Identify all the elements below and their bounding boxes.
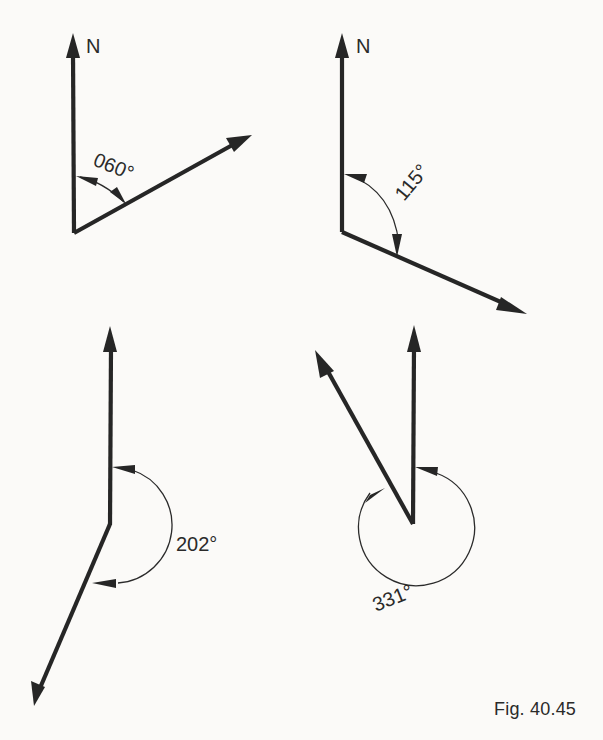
bearing-diagram-115: N 115°	[335, 33, 527, 314]
bearing-diagram-060: N 060°	[66, 33, 252, 233]
north-line	[413, 346, 414, 524]
angle-arc	[350, 175, 399, 244]
north-arrow-icon	[407, 325, 421, 352]
north-label: N	[356, 35, 370, 57]
bearing-label: 202°	[176, 533, 217, 555]
arc-end-arrow-icon	[110, 187, 126, 204]
north-line	[110, 348, 111, 525]
arc-end-arrow-icon	[92, 579, 116, 588]
bearing-label: 331°	[369, 580, 416, 616]
bearing-line	[326, 368, 413, 524]
north-arrow-icon	[335, 33, 349, 58]
north-arrow-icon	[66, 33, 80, 58]
bearings-figure: N 060° N 115° 202°	[0, 0, 603, 740]
bearing-arrow-icon	[496, 297, 527, 314]
bearing-label: 115°	[390, 160, 432, 205]
bearing-arrow-icon	[226, 135, 252, 152]
bearing-line	[40, 524, 110, 688]
angle-arc	[359, 473, 475, 586]
angle-arc	[118, 470, 172, 583]
bearing-line	[342, 232, 510, 306]
arc-start-arrow-icon	[344, 174, 367, 183]
arc-start-arrow-icon	[76, 176, 98, 186]
bearing-diagram-331: 331°	[315, 325, 475, 616]
north-label: N	[86, 35, 100, 57]
bearing-diagram-202: 202°	[31, 326, 217, 706]
north-line	[73, 52, 74, 233]
north-arrow-icon	[103, 326, 117, 352]
arc-start-arrow-icon	[415, 467, 438, 476]
figure-caption: Fig. 40.45	[494, 699, 576, 720]
arc-start-arrow-icon	[112, 465, 135, 474]
